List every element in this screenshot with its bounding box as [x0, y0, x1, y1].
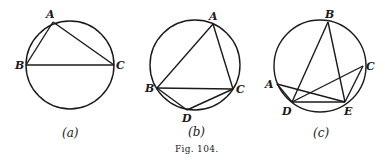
label-e: E — [343, 105, 353, 118]
label-d: D — [281, 105, 292, 118]
label-c: C — [366, 60, 375, 73]
segment-ab — [157, 24, 213, 88]
label-b: B — [144, 82, 154, 95]
sublabel-b: (b) — [188, 125, 205, 139]
panel-a: A B C (a) — [14, 8, 125, 140]
segment-dc — [292, 66, 363, 102]
figure-caption: Fig. 104. — [175, 144, 218, 154]
segment-ac — [213, 24, 233, 89]
sublabel-a: (a) — [62, 126, 79, 140]
panel-b: A B C D (b) Fig. 104. — [144, 10, 245, 154]
label-a: A — [208, 10, 218, 23]
figure-104: A B C (a) A B C D (b) Fig. 104. B C A D … — [0, 0, 385, 163]
label-b: B — [14, 59, 24, 72]
label-d: D — [181, 112, 192, 125]
segment-be — [328, 22, 345, 102]
segment-bd — [157, 88, 187, 110]
segment-ac — [53, 22, 114, 65]
label-a: A — [264, 78, 274, 91]
label-c: C — [116, 59, 125, 72]
circle-b — [150, 20, 240, 110]
segment-bc — [157, 88, 233, 89]
sublabel-c: (c) — [313, 126, 329, 140]
label-c: C — [236, 83, 245, 96]
label-a: A — [45, 8, 55, 21]
segment-ab — [26, 22, 53, 65]
panel-c: B C A D E (c) — [264, 8, 375, 140]
circle-c — [274, 20, 366, 112]
label-b: B — [324, 8, 334, 21]
